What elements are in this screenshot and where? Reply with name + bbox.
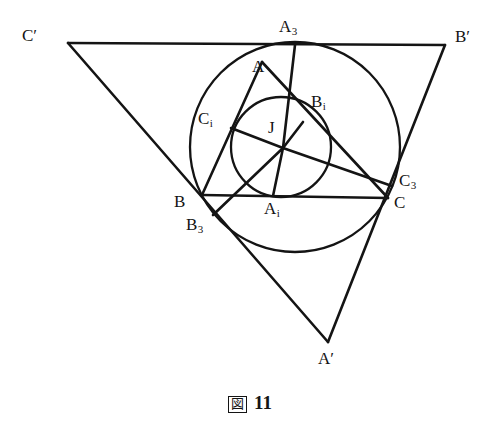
geometry-diagram bbox=[0, 0, 500, 426]
point-label-j: J bbox=[268, 119, 275, 136]
cevian-J-C3 bbox=[283, 148, 392, 186]
point-label-c3: C3 bbox=[399, 172, 416, 189]
figure-caption: 図11 bbox=[0, 392, 500, 414]
side-A-prime-B-prime bbox=[328, 45, 445, 342]
caption-kanji-glyph: 図 bbox=[228, 396, 247, 413]
point-label-a-prime: A′ bbox=[318, 350, 334, 367]
point-label-a: A bbox=[252, 58, 264, 75]
point-label-c: C bbox=[394, 194, 405, 211]
point-label-ai: Ai bbox=[264, 200, 280, 217]
point-label-ci: Ci bbox=[198, 110, 213, 127]
figure-container: C′A3B′ABiCiJC3BAiCB3A′ 図11 bbox=[0, 0, 500, 426]
point-label-b-prime: B′ bbox=[455, 28, 470, 45]
point-label-b: B bbox=[174, 193, 185, 210]
point-label-c-prime: C′ bbox=[22, 27, 37, 44]
point-label-b3: B3 bbox=[186, 216, 203, 233]
side-B-prime-C-prime bbox=[68, 43, 445, 45]
point-label-a3: A3 bbox=[279, 18, 297, 35]
caption-number: 11 bbox=[247, 392, 272, 414]
point-label-bi: Bi bbox=[311, 93, 326, 110]
inradius-J-Ci bbox=[231, 128, 283, 148]
